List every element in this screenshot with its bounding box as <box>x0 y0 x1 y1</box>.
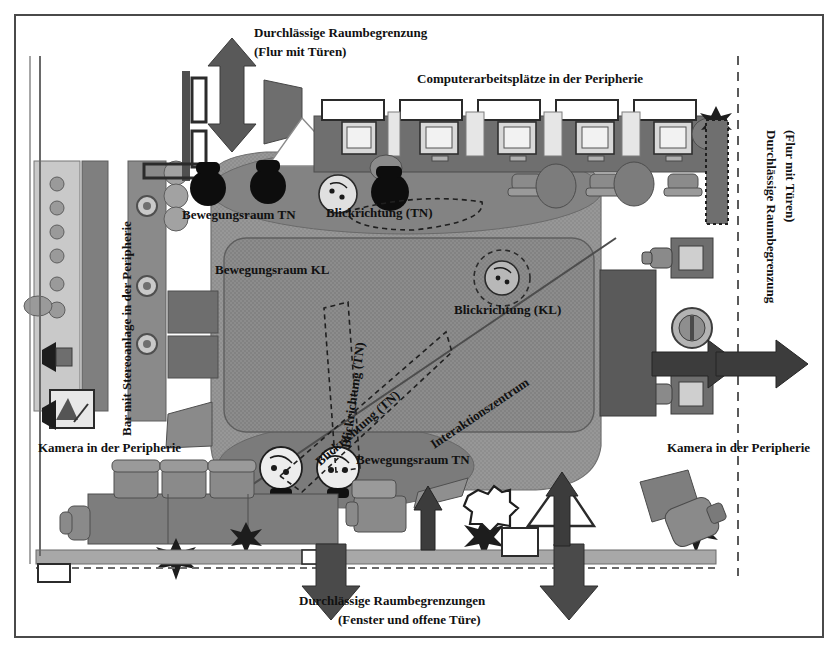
label-camera-left: Kamera in der Peripherie <box>38 441 181 456</box>
label-gaze-direction-tn-top: Blickrichtung (TN) <box>326 206 433 221</box>
label-computer-workstations: Computerarbeitsplätze in der Peripherie <box>417 72 643 87</box>
label-movement-room-tn-top: Bewegungsraum TN <box>182 208 296 223</box>
diagram-frame: Durchlässige Raumbegrenzung (Flur mit Tü… <box>14 14 824 638</box>
label-top-corridor-line2: (Flur mit Türen) <box>254 45 346 60</box>
label-bottom-boundaries-line1: Durchlässige Raumbegrenzungen <box>299 594 485 609</box>
label-movement-room-tn-bottom: Bewegungsraum TN <box>356 453 470 468</box>
presentation-panel <box>600 270 656 416</box>
arrow-up-down-icon <box>208 38 256 152</box>
label-camera-right: Kamera in der Peripherie <box>667 441 810 456</box>
label-top-corridor-line1: Durchlässige Raumbegrenzung <box>254 26 427 41</box>
label-bar-with-stereo: Bar mit Stereoanlage in der Peripherie <box>120 221 135 436</box>
camera-icon-bottom-right <box>640 470 731 550</box>
diagram-graphics <box>16 16 822 636</box>
label-bottom-boundaries-line2: (Fenster und offene Türe) <box>338 613 481 628</box>
arrow-left-icon <box>716 340 808 388</box>
label-right-corridor-line2: (Flur mit Türen) <box>782 130 797 222</box>
label-movement-room-kl: Bewegungsraum KL <box>215 263 329 278</box>
diagram-canvas: Durchlässige Raumbegrenzung (Flur mit Tü… <box>0 0 840 654</box>
label-right-corridor-line1: Durchlässige Raumbegrenzung <box>763 130 778 303</box>
label-gaze-direction-kl: Blickrichtung (KL) <box>454 303 561 318</box>
right-corridor-dotted-boundary <box>706 56 738 576</box>
star-shape <box>464 486 518 532</box>
